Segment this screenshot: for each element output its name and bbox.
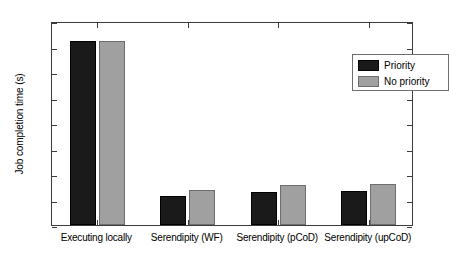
y-tick-mark: [52, 74, 57, 75]
x-tick-label: Serendipity (upCoD): [323, 232, 414, 243]
y-tick-mark-right: [407, 151, 412, 152]
y-tick-mark-right: [407, 227, 412, 228]
x-tick-label: Executing locally: [51, 232, 142, 243]
bar-priority: [251, 192, 277, 225]
bar-no-priority: [370, 184, 396, 225]
y-axis-label: Job completion time (s): [14, 22, 28, 226]
bar-priority: [160, 196, 186, 225]
y-tick-mark: [52, 23, 57, 24]
legend-item-no-priority: No priority: [358, 75, 430, 88]
bar-no-priority: [280, 185, 306, 225]
plot-area: 010002000300040005000600070008000 Priori…: [51, 22, 413, 226]
bar-priority: [70, 41, 96, 225]
x-tick-mark: [278, 220, 279, 225]
y-tick-mark: [52, 176, 57, 177]
y-tick-mark: [52, 125, 57, 126]
y-tick-mark: [52, 202, 57, 203]
legend-label-no-priority: No priority: [384, 76, 430, 87]
y-tick-mark: [52, 49, 57, 50]
y-tick-mark-right: [407, 23, 412, 24]
x-tick-mark-top: [188, 23, 189, 28]
y-tick-mark-right: [407, 125, 412, 126]
bar-no-priority: [189, 190, 215, 225]
legend-swatch-priority: [358, 60, 379, 71]
x-tick-mark-top: [369, 23, 370, 28]
x-tick-label: Serendipity (pCoD): [232, 232, 323, 243]
y-tick-mark: [52, 151, 57, 152]
x-tick-label: Serendipity (WF): [142, 232, 233, 243]
y-tick-mark-right: [407, 100, 412, 101]
y-tick-mark: [52, 227, 57, 228]
bar-priority: [341, 191, 367, 225]
x-tick-mark-top: [97, 23, 98, 28]
y-tick-mark-right: [407, 49, 412, 50]
x-tick-mark: [97, 220, 98, 225]
chart-legend: Priority No priority: [352, 54, 449, 91]
y-tick-mark-right: [407, 176, 412, 177]
x-tick-mark-top: [278, 23, 279, 28]
y-tick-mark-right: [407, 202, 412, 203]
legend-item-priority: Priority: [358, 59, 415, 72]
legend-label-priority: Priority: [384, 60, 415, 71]
bar-no-priority: [99, 41, 125, 225]
y-tick-mark: [52, 100, 57, 101]
legend-swatch-no-priority: [358, 76, 379, 87]
